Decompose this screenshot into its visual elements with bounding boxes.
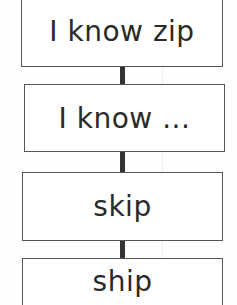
flow-box-skip: skip: [22, 172, 223, 241]
flow-box-label: I know zip: [49, 15, 194, 48]
flow-box-label: I know ...: [59, 102, 191, 135]
connector-line: [120, 241, 125, 258]
flow-box-i-know-zip: I know zip: [21, 0, 223, 67]
flow-box-i-know-blank: I know ...: [24, 84, 225, 152]
flow-box-label: skip: [93, 190, 151, 223]
connector-line: [120, 152, 125, 172]
flow-box-ship: ship: [22, 258, 223, 305]
flowchart-canvas: I know zip I know ... skip ship: [0, 0, 237, 305]
connector-line: [120, 67, 125, 84]
flow-box-label: ship: [93, 265, 153, 298]
